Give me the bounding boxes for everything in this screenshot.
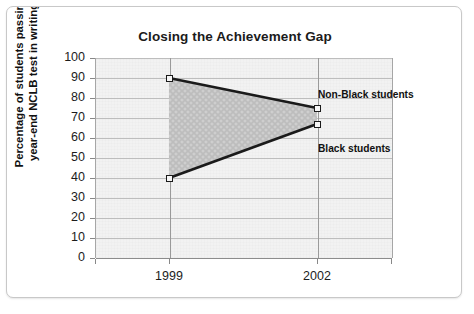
y-axis-tick-label: 20 [51, 210, 85, 224]
x-axis-end-tick-mark [391, 259, 392, 264]
y-axis-tick-label: 50 [51, 150, 85, 164]
y-axis-tick-label: 80 [51, 90, 85, 104]
y-axis-tick-label: 90 [51, 70, 85, 84]
data-point-marker [314, 121, 321, 128]
chart-figure-frame: Closing the Achievement Gap Percentage o… [6, 6, 462, 298]
y-axis-title: Percentage of students passing year-end … [9, 6, 43, 185]
series-annotation-non-black: Non-Black students [318, 89, 414, 100]
data-point-marker [166, 175, 173, 182]
y-axis-tick-label: 100 [51, 50, 85, 64]
x-axis-tick-label: 2002 [287, 269, 347, 283]
y-axis-tick-label: 30 [51, 190, 85, 204]
y-axis-tick-label: 0 [51, 250, 85, 264]
data-point-marker [166, 75, 173, 82]
x-axis-tick-label: 1999 [139, 269, 199, 283]
data-point-marker [314, 105, 321, 112]
y-axis-tick-label: 10 [51, 230, 85, 244]
y-axis-tick-label: 60 [51, 130, 85, 144]
series-annotation-black: Black students [318, 143, 390, 154]
y-axis-tick-label: 70 [51, 110, 85, 124]
x-axis-end-tick-mark [95, 259, 96, 264]
chart-title: Closing the Achievement Gap [7, 29, 462, 44]
x-axis-tick-mark [317, 259, 318, 264]
y-axis-tick-label: 40 [51, 170, 85, 184]
x-axis-tick-mark [169, 259, 170, 264]
